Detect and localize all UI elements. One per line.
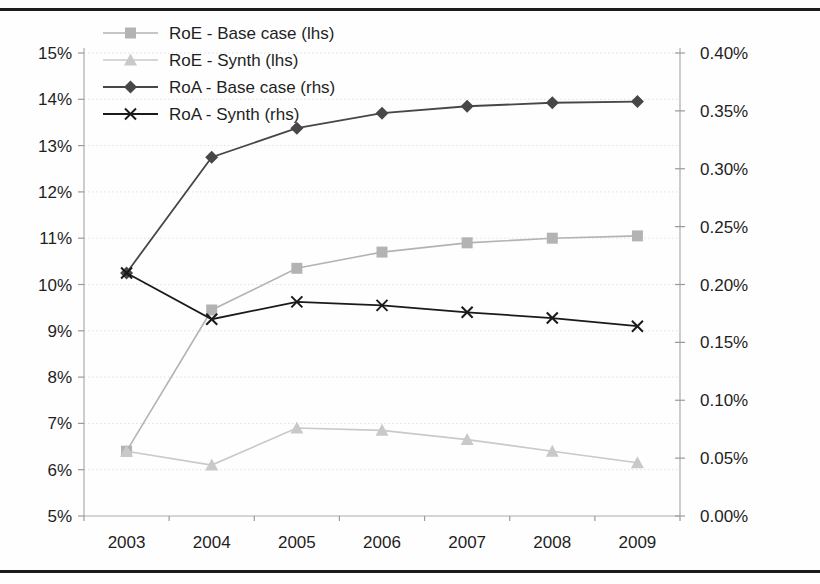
right-axis-label: 0.00% [700, 507, 748, 526]
series-line [127, 273, 638, 326]
diamond-marker [205, 151, 218, 164]
legend-label: RoE - Base case (lhs) [169, 24, 334, 43]
right-axis-label: 0.05% [700, 449, 748, 468]
diamond-marker [461, 100, 474, 113]
left-axis-label: 8% [47, 368, 72, 387]
left-axis-label: 13% [38, 137, 72, 156]
diamond-marker [631, 95, 644, 108]
square-marker [547, 233, 558, 244]
right-axis-label: 0.30% [700, 160, 748, 179]
figure: 15%14%13%12%11%10%9%8%7%6%5%0.40%0.35%0.… [0, 0, 820, 584]
right-axis-label: 0.25% [700, 218, 748, 237]
square-marker [462, 237, 473, 248]
left-axis-label: 12% [38, 183, 72, 202]
legend-label: RoE - Synth (lhs) [169, 51, 298, 70]
right-axis-label: 0.40% [700, 44, 748, 63]
series-line [127, 236, 638, 451]
left-axis-label: 5% [47, 507, 72, 526]
legend-label: RoA - Base case (rhs) [169, 78, 335, 97]
diamond-marker [376, 107, 389, 120]
x-axis-label: 2006 [363, 533, 401, 552]
square-marker [125, 28, 136, 39]
left-axis-label: 14% [38, 90, 72, 109]
left-axis-label: 7% [47, 414, 72, 433]
left-axis-label: 6% [47, 461, 72, 480]
x-axis-label: 2003 [108, 533, 146, 552]
right-axis-label: 0.15% [700, 333, 748, 352]
left-axis-label: 15% [38, 44, 72, 63]
square-marker [377, 247, 388, 258]
right-axis-label: 0.35% [700, 102, 748, 121]
x-axis-label: 2005 [278, 533, 316, 552]
dual-axis-line-chart: 15%14%13%12%11%10%9%8%7%6%5%0.40%0.35%0.… [0, 0, 820, 584]
diamond-marker [546, 96, 559, 109]
left-axis-label: 10% [38, 276, 72, 295]
x-axis-label: 2004 [193, 533, 231, 552]
square-marker [632, 230, 643, 241]
diamond-marker [124, 81, 137, 94]
square-marker [206, 304, 217, 315]
x-axis-label: 2007 [448, 533, 486, 552]
left-axis-label: 9% [47, 322, 72, 341]
bottom-rule [0, 570, 820, 573]
square-marker [291, 263, 302, 274]
x-axis-label: 2008 [533, 533, 571, 552]
x-axis-label: 2009 [619, 533, 657, 552]
legend-label: RoA - Synth (rhs) [169, 105, 299, 124]
right-axis-label: 0.10% [700, 391, 748, 410]
left-axis-label: 11% [39, 229, 72, 248]
right-axis-label: 0.20% [700, 276, 748, 295]
